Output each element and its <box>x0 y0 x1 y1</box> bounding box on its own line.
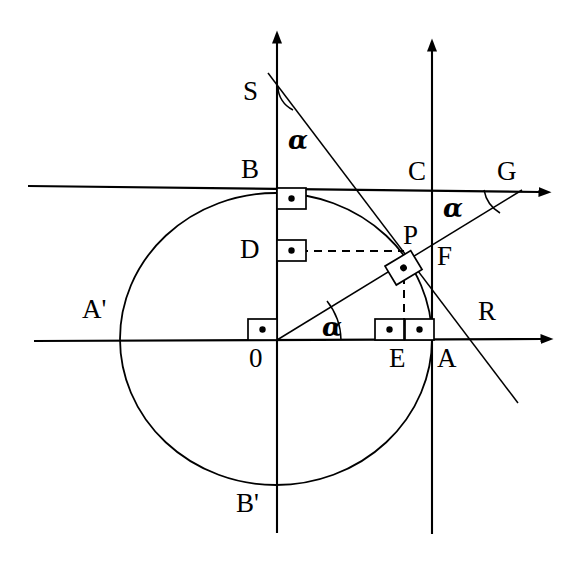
label-angle-at-s: α <box>288 127 308 153</box>
label-point-b-prime: B' <box>236 490 259 517</box>
label-point-e: E <box>389 345 406 372</box>
label-point-p: P <box>403 222 418 249</box>
angle-arc-g <box>484 190 500 213</box>
right-angle-marker-b <box>277 188 306 209</box>
label-point-a: A <box>437 345 457 372</box>
label-angle-at-origin: α <box>322 314 342 340</box>
right-angle-marker-p <box>385 251 422 285</box>
x-axis <box>34 339 542 341</box>
label-point-r: R <box>478 298 496 325</box>
label-point-g: G <box>497 158 517 185</box>
label-point-b: B <box>241 156 259 183</box>
geometry-figure <box>0 0 579 563</box>
right-angle-marker-a <box>405 319 434 340</box>
right-angle-marker-origin <box>248 319 277 340</box>
label-point-a-prime: A' <box>82 296 106 323</box>
label-point-d: D <box>240 236 260 263</box>
label-angle-at-g: α <box>443 195 463 221</box>
label-origin: 0 <box>249 345 263 372</box>
label-point-f: F <box>437 243 452 270</box>
right-angle-marker-e <box>375 319 404 340</box>
diagram-canvas: S α B C G α P F D A' R α 0 E A B' <box>0 0 579 563</box>
label-point-s: S <box>243 78 258 105</box>
label-point-c: C <box>408 158 426 185</box>
right-angle-marker-d <box>277 240 306 261</box>
